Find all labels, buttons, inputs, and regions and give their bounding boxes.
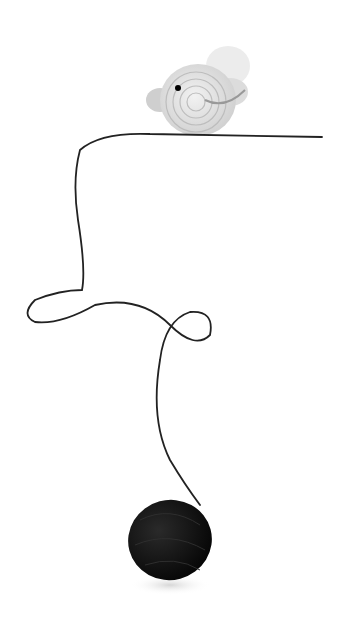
scene-illustration (0, 0, 343, 638)
thread (28, 134, 323, 505)
mouse-eye (175, 85, 181, 91)
crochet-mouse (146, 46, 250, 136)
photo-canvas: Crocheted white mouse resting on a dark … (0, 0, 343, 638)
yarn-ball (119, 490, 221, 589)
